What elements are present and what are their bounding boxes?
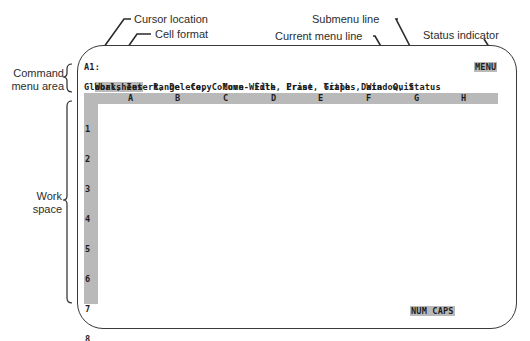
brace-work-space [63, 101, 72, 303]
row-label[interactable]: 8 [84, 334, 98, 341]
lock-indicators: NUM CAPS [410, 306, 455, 316]
column-label-f[interactable]: F [366, 93, 371, 103]
column-label-d[interactable]: D [271, 93, 276, 103]
callout-cursor-location: Cursor location [134, 13, 208, 26]
label-command-line2: menu area [10, 80, 64, 93]
cell-address: A1: [84, 62, 100, 72]
row-label[interactable]: 6 [84, 274, 98, 284]
column-label-a[interactable]: A [128, 93, 133, 103]
caps-lock-indicator: CAPS [432, 306, 453, 316]
callout-status-indicator: Status indicator [423, 29, 499, 42]
column-label-h[interactable]: H [461, 93, 466, 103]
callout-current-menu-line: Current menu line [275, 30, 362, 43]
label-work-line2: space [22, 203, 62, 216]
brace-command-menu-area [63, 64, 72, 92]
row-label[interactable]: 4 [84, 214, 98, 224]
row-label[interactable]: 7 [84, 304, 98, 314]
label-work-line1: Work [22, 190, 62, 203]
num-lock-indicator: NUM [411, 306, 427, 316]
row-label[interactable]: 1 [84, 124, 98, 134]
label-command-menu-area: Command menu area [10, 67, 64, 93]
row-label[interactable]: 3 [84, 184, 98, 194]
label-work-space: Work space [22, 190, 62, 216]
status-indicator-mode: MENU [474, 62, 497, 72]
callout-submenu-line: Submenu line [312, 13, 379, 26]
column-label-g[interactable]: G [414, 93, 419, 103]
row-label[interactable]: 5 [84, 244, 98, 254]
callout-cell-format: Cell format [155, 28, 208, 41]
column-label-b[interactable]: B [175, 93, 180, 103]
column-label-e[interactable]: E [318, 93, 323, 103]
label-command-line1: Command [10, 67, 64, 80]
column-header-bar: A B C D E F G H [84, 93, 498, 104]
submenu-line: Global, Insert, Delete, Column-Width, Er… [84, 82, 441, 92]
row-label[interactable]: 2 [84, 154, 98, 164]
row-header-bar: 1 2 3 4 5 6 7 8 9 10 11 12 13 14 15 16 1… [84, 104, 98, 304]
column-label-c[interactable]: C [223, 93, 228, 103]
